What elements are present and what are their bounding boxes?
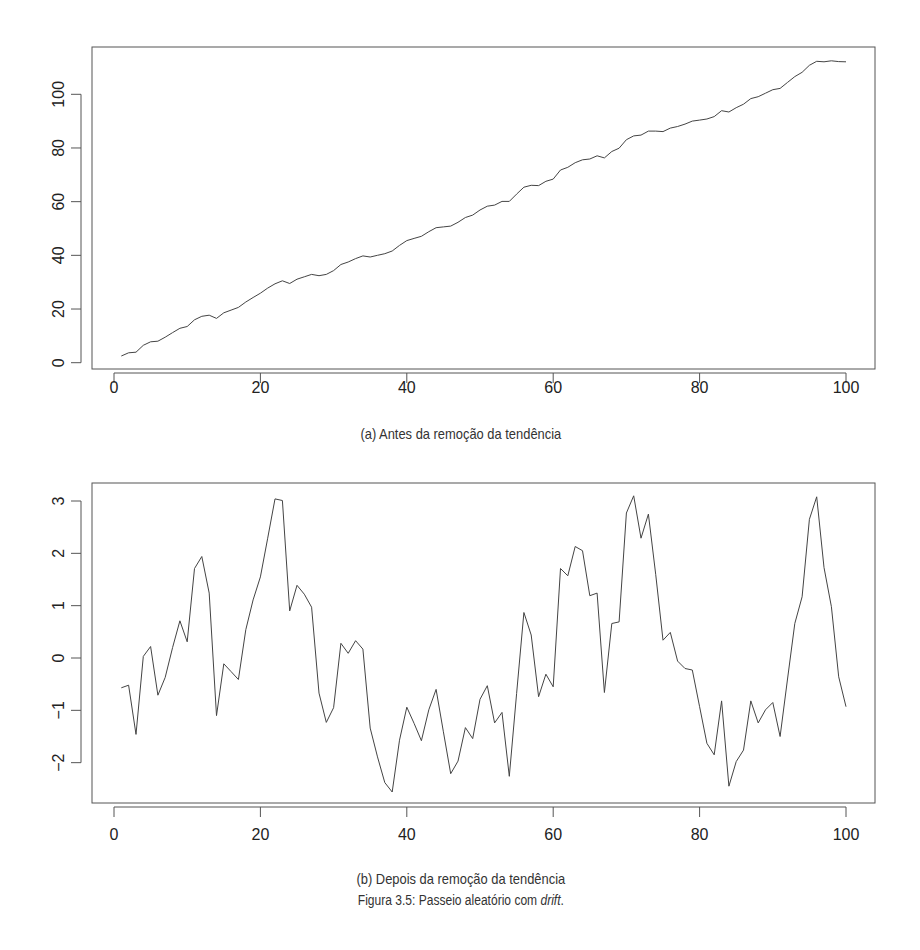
panel-b-after-detrend: 020406080100−2−10123	[50, 483, 875, 843]
y-tick-label: 40	[50, 246, 67, 264]
y-tick-label: 2	[50, 549, 67, 558]
x-tick-label: 0	[110, 826, 119, 843]
x-tick-label: 20	[252, 379, 270, 396]
x-tick-label: 60	[544, 826, 562, 843]
chart-canvas: 020406080100020406080100 020406080100−2−…	[0, 0, 920, 950]
y-tick-label: 0	[50, 358, 67, 367]
series-line	[121, 496, 846, 792]
panel-a-before-detrend: 020406080100020406080100	[50, 47, 875, 396]
x-tick-label: 60	[544, 379, 562, 396]
figure-caption-italic: drift	[540, 892, 560, 908]
y-tick-label: 80	[50, 139, 67, 157]
x-tick-label: 100	[833, 379, 860, 396]
y-tick-label: 3	[50, 496, 67, 505]
x-tick-label: 40	[398, 379, 416, 396]
y-tick-label: 60	[50, 193, 67, 211]
figure: 020406080100020406080100 020406080100−2−…	[0, 0, 920, 950]
x-tick-label: 100	[833, 826, 860, 843]
panel-b-caption: (b) Depois da remoção da tendência	[65, 870, 856, 887]
y-tick-label: −2	[50, 753, 67, 771]
figure-caption-text: Figura 3.5: Passeio aleatório com	[358, 892, 541, 908]
y-tick-label: 100	[50, 81, 67, 108]
panel-a-caption: (a) Antes da remoção da tendência	[65, 425, 856, 442]
y-tick-label: −1	[50, 701, 67, 719]
y-tick-label: 1	[50, 601, 67, 610]
y-tick-label: 20	[50, 300, 67, 318]
x-tick-label: 40	[398, 826, 416, 843]
figure-caption-suffix: .	[561, 892, 564, 908]
plot-frame	[92, 483, 875, 803]
figure-caption: Figura 3.5: Passeio aleatório com drift.	[65, 892, 856, 908]
x-tick-label: 20	[252, 826, 270, 843]
x-tick-label: 80	[691, 826, 709, 843]
y-tick-label: 0	[50, 653, 67, 662]
series-line	[121, 61, 846, 356]
x-tick-label: 80	[691, 379, 709, 396]
x-tick-label: 0	[110, 379, 119, 396]
